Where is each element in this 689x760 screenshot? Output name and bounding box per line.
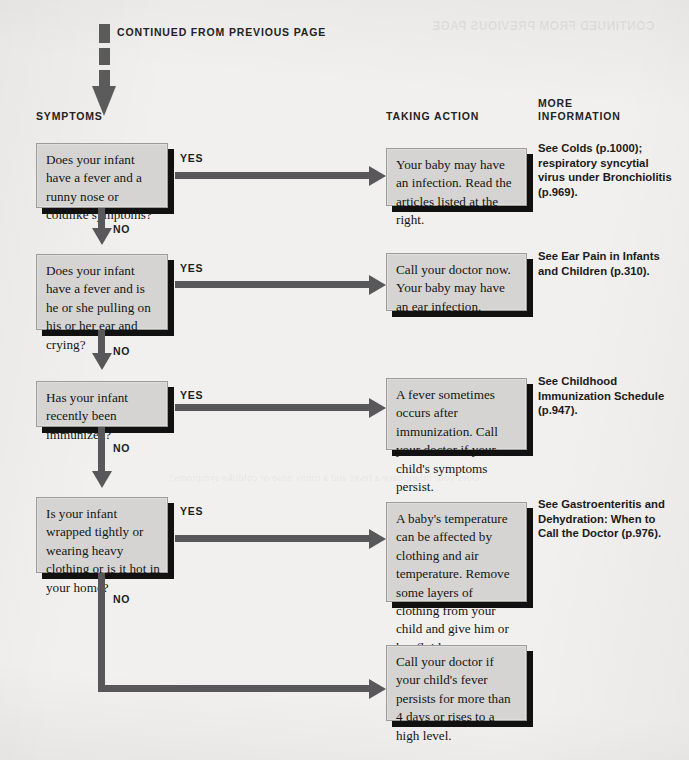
action-box-final-text: Call your doctor if your child's fever p… [396, 653, 519, 745]
no-label-3: NO [113, 442, 130, 454]
no-arrowhead-1-icon [92, 228, 112, 245]
symptom-box-2[interactable]: Does your infant have a fever and is he … [36, 254, 168, 330]
more-information-4: See Gastroenteritis and Dehydration: Whe… [538, 497, 678, 541]
action-box-3[interactable]: A fever sometimes occurs after immunizat… [386, 378, 527, 450]
action-box-2-body: Call your doctor now. Your baby may have… [386, 253, 527, 311]
symptom-box-2-body: Does your infant have a fever and is he … [36, 254, 168, 330]
no-label-4: NO [113, 593, 130, 605]
symptom-box-1[interactable]: Does your infant have a fever and a runn… [36, 143, 168, 208]
action-box-3-text: A fever sometimes occurs after immunizat… [396, 386, 519, 496]
no-label-2: NO [113, 345, 130, 357]
yes-label-3: YES [180, 389, 203, 401]
action-box-1[interactable]: Your baby may have an infection. Read th… [386, 148, 527, 206]
action-box-1-body: Your baby may have an infection. Read th… [386, 148, 527, 206]
continued-dash-2 [99, 48, 110, 65]
page-showthrough-text: CONTINUED FROM PREVIOUS PAGE [418, 18, 668, 34]
yes-label-4: YES [180, 505, 203, 517]
yes-label-2: YES [180, 262, 203, 274]
symptom-box-3-body: Has your infant recently been immunized? [36, 381, 168, 427]
no-connector-4 [98, 573, 105, 692]
yes-connector-1 [175, 172, 375, 179]
yes-connector-2 [175, 281, 375, 288]
final-arrowhead-icon [369, 679, 386, 699]
action-box-final[interactable]: Call your doctor if your child's fever p… [386, 645, 527, 721]
no-connector-1 [98, 208, 105, 230]
no-arrowhead-3-icon [92, 471, 112, 488]
column-heading-taking-action: TAKING ACTION [386, 110, 479, 123]
action-box-2-text: Call your doctor now. Your baby may have… [396, 261, 519, 316]
yes-arrowhead-2-icon [369, 275, 386, 295]
action-box-2[interactable]: Call your doctor now. Your baby may have… [386, 253, 527, 311]
no-connector-3 [98, 427, 105, 473]
no-connector-2 [98, 330, 105, 355]
no-label-1: NO [113, 223, 130, 235]
column-heading-more-information: MORE INFORMATION [538, 97, 621, 123]
action-box-3-body: A fever sometimes occurs after immunizat… [386, 378, 527, 450]
symptom-box-1-body: Does your infant have a fever and a runn… [36, 143, 168, 208]
action-box-1-text: Your baby may have an infection. Read th… [396, 156, 519, 230]
yes-connector-4 [175, 535, 375, 542]
more-information-3: See Childhood Immunization Schedule (p.9… [538, 374, 678, 418]
yes-connector-3 [175, 404, 375, 411]
yes-arrowhead-4-icon [369, 529, 386, 549]
continued-from-previous-page-label: CONTINUED FROM PREVIOUS PAGE [117, 26, 326, 38]
more-information-1: See Colds (p.1000); respiratory syncytia… [538, 141, 678, 199]
yes-arrowhead-1-icon [369, 166, 386, 186]
continued-dash-1 [99, 24, 110, 43]
yes-arrowhead-3-icon [369, 398, 386, 418]
symptom-box-4[interactable]: Is your infant wrapped tightly or wearin… [36, 497, 168, 573]
yes-label-1: YES [180, 152, 203, 164]
final-connector-horizontal [98, 685, 375, 692]
action-box-4-text: A baby's temperature can be affected by … [396, 510, 519, 657]
symptom-box-4-body: Is your infant wrapped tightly or wearin… [36, 497, 168, 573]
column-heading-symptoms: SYMPTOMS [36, 110, 103, 123]
more-information-2: See Ear Pain in Infants and Children (p.… [538, 249, 678, 278]
symptom-box-3[interactable]: Has your infant recently been immunized? [36, 381, 168, 427]
action-box-4[interactable]: A baby's temperature can be affected by … [386, 502, 527, 602]
action-box-final-body: Call your doctor if your child's fever p… [386, 645, 527, 721]
no-arrowhead-2-icon [92, 353, 112, 370]
action-box-4-body: A baby's temperature can be affected by … [386, 502, 527, 602]
continued-dash-3 [99, 70, 110, 87]
